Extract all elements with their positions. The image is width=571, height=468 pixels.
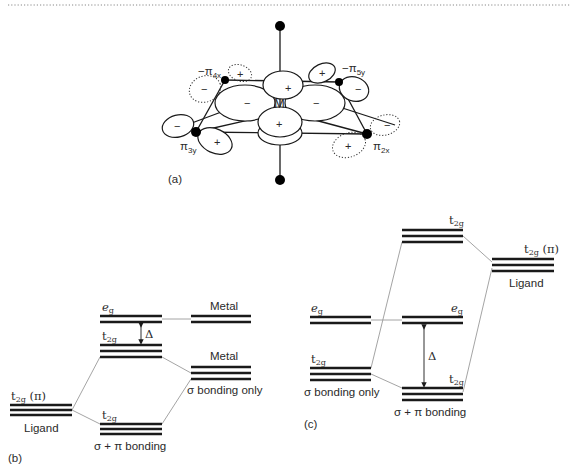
label-complex-t2g-lower-c: t2g <box>449 372 464 387</box>
level-sigma-eg <box>310 317 371 323</box>
caption-sigma-bonding-only: σ bonding only <box>187 384 263 396</box>
caption-metal-eg: Metal <box>210 300 238 312</box>
figure: + + − − + − + − − + + − M −π4x −π5y π3y … <box>0 0 571 468</box>
delta-label: Δ <box>145 327 153 341</box>
label-complex-t2g-upper: t2g <box>102 329 117 344</box>
label-ligand-t2g: t2g (π) <box>11 389 46 404</box>
panel-a-label: (a) <box>168 173 182 185</box>
panel-a-orbital-diagram: + + − − + − + − − + + − M −π4x −π5y π3y … <box>160 21 402 185</box>
sign-minus: − <box>244 97 250 109</box>
sign-minus: − <box>174 120 180 132</box>
level-complex-t2g-upper <box>100 345 162 357</box>
caption-sigma-bonding-only-c: σ bonding only <box>304 386 380 398</box>
level-sigma-t2g <box>310 368 371 380</box>
title-metal-sigma: Metal <box>210 350 238 362</box>
level-complex-t2g-lower <box>100 424 162 434</box>
label-complex-eg: eg <box>102 300 114 315</box>
level-complex-eg <box>100 316 162 322</box>
label-ligand-t2g-c: t2g (π) <box>524 242 559 257</box>
orbital-label-3y: π3y <box>180 140 196 155</box>
label-complex-eg-c: eg <box>451 301 463 316</box>
panel-c-energy-diagram: eg t2g σ bonding only t2g eg Δ <box>304 213 559 430</box>
caption-ligand: Ligand <box>24 422 59 434</box>
ligand-atom-3y <box>191 127 201 137</box>
axial-ligand-bottom <box>275 175 285 185</box>
sign-plus: + <box>285 82 291 94</box>
ligand-atom-2x <box>362 129 372 139</box>
level-complex-t2g-lower-c <box>402 388 463 400</box>
caption-sigma-pi-bonding: σ + π bonding <box>94 440 166 452</box>
panel-c-label: (c) <box>304 418 318 430</box>
sign-minus: − <box>384 119 390 131</box>
sign-plus: + <box>345 140 351 152</box>
level-metal-eg <box>191 316 251 322</box>
level-complex-t2g-upper-c <box>402 230 463 242</box>
level-ligand-t2g-c <box>492 259 554 271</box>
panel-b-energy-diagram: t2g (π) Ligand eg t2g Δ t2g σ + π bondin… <box>8 300 263 464</box>
sign-minus: − <box>201 83 207 95</box>
level-complex-eg-c <box>402 317 463 323</box>
orbital-label-2x: π2x <box>373 140 389 155</box>
metal-center-label: M <box>274 96 285 111</box>
caption-sigma-pi-bonding-c: σ + π bonding <box>394 406 466 418</box>
level-ligand-t2g <box>10 405 72 415</box>
ligand-atom-4x <box>221 76 229 84</box>
axial-ligand-top <box>275 21 285 31</box>
ligand-atom-5y <box>335 78 343 86</box>
level-metal-sigma-t2g <box>191 367 251 379</box>
sign-plus: + <box>319 67 325 79</box>
orbital-label-5y: −π5y <box>342 62 365 77</box>
orbital-label-4x: −π4x <box>198 65 221 80</box>
label-sigma-eg: eg <box>311 301 323 316</box>
sign-plus: + <box>237 68 243 80</box>
panel-b-label: (b) <box>8 452 22 464</box>
sign-minus: − <box>355 83 361 95</box>
sign-plus: + <box>214 136 220 148</box>
caption-ligand-c: Ligand <box>509 277 544 289</box>
label-complex-t2g-upper-c: t2g <box>449 213 464 228</box>
label-sigma-t2g: t2g <box>311 352 326 367</box>
sign-plus: + <box>276 118 282 130</box>
sign-minus: − <box>313 97 319 109</box>
delta-label-c: Δ <box>428 349 436 363</box>
label-complex-t2g-lower: t2g <box>102 408 117 423</box>
